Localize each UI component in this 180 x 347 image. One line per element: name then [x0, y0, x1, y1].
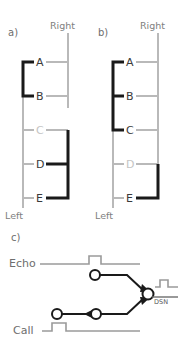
call-node-left[interactable]: [52, 309, 62, 319]
echo-node[interactable]: [90, 270, 100, 280]
panel-a-rung-label-c: C: [36, 124, 44, 137]
dsn-label: DSN: [154, 298, 168, 306]
dsn-waveform: [155, 280, 178, 287]
panel-b: b) Right A B C D E Left: [90, 0, 180, 222]
panel-c-svg: c) Echo DSN Call: [0, 222, 180, 347]
panel-a-rung-label-a: A: [36, 56, 44, 69]
panel-b-svg: b) Right A B C D E Left: [90, 0, 180, 222]
panel-b-right-bracket: [136, 164, 158, 198]
panel-a-rung-label-d: D: [36, 158, 44, 171]
echo-branch-wire: [95, 275, 143, 290]
panel-b-rung-label-d: D: [126, 158, 134, 171]
panel-b-rung-label-a: A: [126, 56, 134, 69]
call-waveform: [42, 323, 140, 331]
echo-signal-label: Echo: [9, 257, 36, 270]
panel-b-rung-label-c: C: [126, 124, 134, 137]
panel-c: c) Echo DSN Call: [0, 222, 180, 347]
dsn-node[interactable]: [143, 289, 154, 300]
panel-a-bottom-label: Left: [5, 210, 23, 221]
panel-c-tag: c): [11, 232, 20, 243]
panel-a-rung-label-e: E: [36, 192, 43, 205]
panel-a-svg: a) Right A B C D E Left: [0, 0, 90, 222]
call-node-right[interactable]: [91, 309, 101, 319]
panel-a: a) Right A B C D E Left: [0, 0, 90, 222]
panel-b-bottom-label: Left: [95, 210, 113, 221]
panel-b-tag: b): [98, 27, 108, 38]
panel-a-left-bracket: [23, 62, 34, 96]
panel-a-rung-label-b: B: [36, 90, 44, 103]
call-signal-label: Call: [13, 324, 34, 337]
echo-waveform: [40, 256, 140, 264]
panel-b-rung-label-e: E: [126, 192, 133, 205]
panel-a-top-label: Right: [50, 20, 75, 31]
panel-b-top-label: Right: [140, 20, 165, 31]
panel-b-rung-label-b: B: [126, 90, 134, 103]
panel-a-tag: a): [8, 27, 18, 38]
